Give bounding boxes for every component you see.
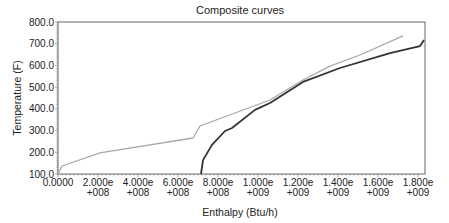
y-tick-label: 800.0 — [29, 17, 54, 28]
svg-text:+008: +008 — [207, 187, 230, 198]
svg-text:+009: +009 — [407, 187, 430, 198]
svg-text:+009: +009 — [247, 187, 270, 198]
x-tick-label: 8.000e+008 — [203, 177, 234, 198]
x-tick-label: 1.200e+009 — [283, 177, 314, 198]
x-tick-label: 1.400e+009 — [323, 177, 354, 198]
x-axis-label: Enthalpy (Btu/h) — [202, 206, 277, 218]
x-axis: 0.00002.000e+0084.000e+0086.000e+0088.00… — [43, 174, 434, 198]
svg-text:0.0000: 0.0000 — [43, 177, 74, 188]
y-tick-label: 200.0 — [29, 147, 54, 158]
svg-text:+009: +009 — [327, 187, 350, 198]
svg-text:+008: +008 — [87, 187, 110, 198]
x-tick-label: 1.000e+009 — [243, 177, 274, 198]
svg-text:+008: +008 — [127, 187, 150, 198]
svg-text:+009: +009 — [287, 187, 310, 198]
y-tick-label: 500.0 — [29, 82, 54, 93]
composite-curves-chart: Composite curves 800.0700.0600.0500.0400… — [0, 0, 449, 223]
x-tick-label: 2.000e+008 — [83, 177, 114, 198]
y-tick-label: 400.0 — [29, 103, 54, 114]
y-axis-label: Temperature (F) — [11, 60, 23, 135]
hot-composite-line — [58, 36, 403, 174]
y-tick-label: 700.0 — [29, 38, 54, 49]
svg-text:+009: +009 — [367, 187, 390, 198]
y-axis: 800.0700.0600.0500.0400.0300.0200.0100.0 — [29, 17, 58, 180]
y-tick-label: 600.0 — [29, 60, 54, 71]
y-tick-label: 300.0 — [29, 125, 54, 136]
cold-composite-line — [201, 40, 424, 174]
x-tick-label: 4.000e+008 — [123, 177, 154, 198]
x-tick-label: 1.800e+009 — [403, 177, 434, 198]
svg-text:+008: +008 — [167, 187, 190, 198]
series-lines — [58, 36, 424, 174]
x-tick-label: 0.0000 — [43, 177, 74, 188]
chart-title: Composite curves — [196, 4, 285, 16]
x-tick-label: 6.000e+008 — [163, 177, 194, 198]
x-tick-label: 1.600e+009 — [363, 177, 394, 198]
